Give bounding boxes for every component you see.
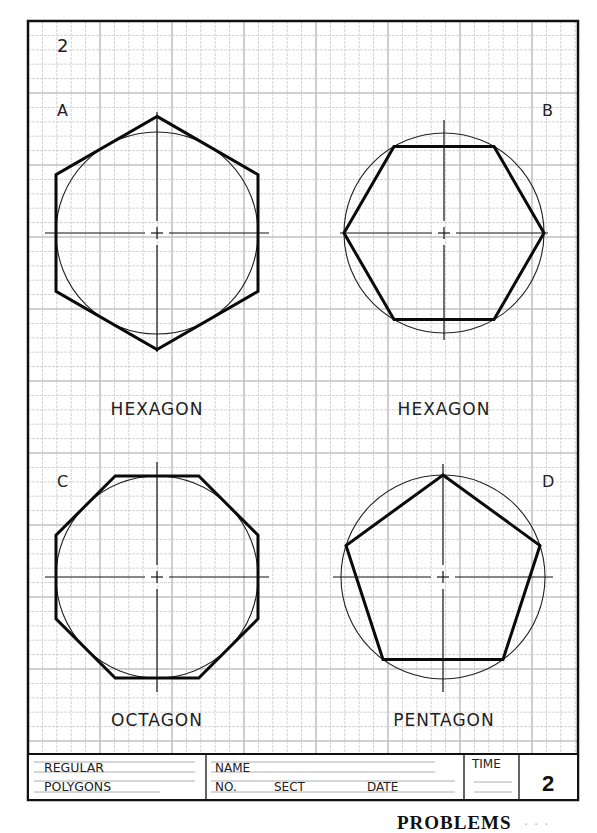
no-label: NO. [215, 780, 237, 794]
figure-name: HEXAGON [398, 399, 491, 419]
time-label: TIME [471, 757, 501, 771]
title-line-2: POLYGONS [44, 779, 111, 794]
footer-problems-heading: PROBLEMS· · · [397, 812, 550, 833]
figure-name: OCTAGON [111, 710, 203, 730]
date-label: DATE [367, 780, 398, 794]
sheet-number: 2 [57, 35, 68, 56]
figures: AHEXAGONBHEXAGONCOCTAGONDPENTAGON [45, 101, 554, 730]
title-block-sheet-number: 2 [542, 771, 554, 796]
figure-name: HEXAGON [111, 399, 204, 419]
title-block: REGULAR POLYGONS NAME NO. SECT DATE TIME… [28, 754, 578, 800]
figure-letter: C [57, 472, 68, 491]
figure-b-hexagon: BHEXAGON [340, 101, 553, 419]
figure-name: PENTAGON [393, 710, 494, 730]
figure-letter: B [542, 101, 553, 120]
footer-title: PROBLEMS [397, 812, 512, 833]
title-line-1: REGULAR [44, 760, 104, 775]
name-label: NAME [215, 761, 250, 775]
figure-letter: A [57, 101, 68, 120]
drawing-sheet: 2 AHEXAGONBHEXAGONCOCTAGONDPENTAGON REGU… [0, 0, 597, 833]
footer-page-hint: · · · [524, 817, 550, 832]
figure-c-octagon: COCTAGON [45, 462, 269, 730]
figure-letter: D [542, 472, 554, 491]
figure-a-hexagon: AHEXAGON [45, 101, 269, 419]
sect-label: SECT [274, 780, 306, 794]
